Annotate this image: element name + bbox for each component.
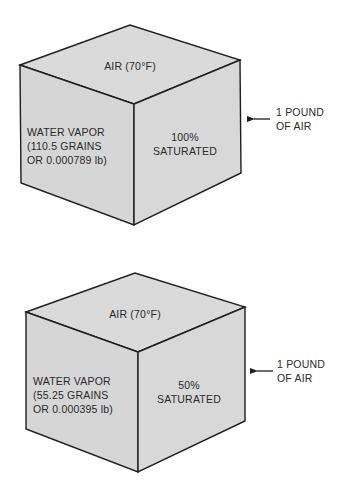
saturation-percent: 50%: [178, 379, 200, 391]
callout-line2: OF AIR: [276, 120, 312, 132]
water-vapor-label-line3: OR 0.000789 lb): [27, 154, 107, 166]
cube-50-percent: AIR (70°F) WATER VAPOR (55.25 GRAINS OR …: [26, 273, 325, 472]
top-face-label: AIR (70°F): [104, 60, 156, 72]
callout-line1: 1 POUND: [276, 106, 324, 118]
callout-line1: 1 POUND: [277, 358, 325, 370]
water-vapor-label-line2: (55.25 GRAINS: [33, 389, 109, 401]
saturation-percent: 100%: [171, 131, 199, 143]
cube-100-percent: AIR (70°F) WATER VAPOR (110.5 GRAINS OR …: [20, 25, 324, 225]
top-face-label: AIR (70°F): [109, 308, 161, 320]
saturation-label: SATURATED: [157, 393, 221, 405]
callout-line2: OF AIR: [277, 372, 313, 384]
water-vapor-label-line3: OR 0.000395 lb): [33, 403, 113, 415]
water-vapor-label-line1: WATER VAPOR: [33, 375, 111, 387]
water-vapor-label-line2: (110.5 GRAINS: [27, 140, 102, 152]
saturation-label: SATURATED: [153, 145, 217, 157]
saturation-diagram: AIR (70°F) WATER VAPOR (110.5 GRAINS OR …: [0, 0, 348, 491]
water-vapor-label-line1: WATER VAPOR: [27, 126, 105, 138]
